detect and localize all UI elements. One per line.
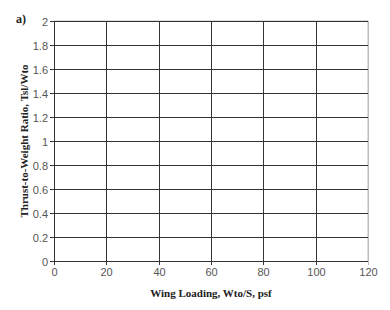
x-tick-label: 20: [100, 266, 112, 278]
y-tick-label: 0.2: [33, 232, 48, 244]
y-tick-label: 0: [42, 256, 48, 268]
x-tick-label: 80: [257, 266, 269, 278]
x-tick-label: 120: [359, 266, 377, 278]
x-tick-label: 0: [51, 266, 57, 278]
x-axis-label: Wing Loading, Wto/S, psf: [150, 287, 272, 299]
x-tick-label: 60: [205, 266, 217, 278]
y-tick-label: 0.6: [33, 184, 48, 196]
y-tick-label: 1.4: [33, 88, 48, 100]
y-tick-label: 2: [42, 16, 48, 28]
y-axis-label: Thrust-to-Weight Ratio, Tsl/Wto: [18, 64, 30, 217]
y-tick-label: 1.2: [33, 112, 48, 124]
x-tick-label: 100: [307, 266, 325, 278]
grid-lines: [50, 21, 369, 265]
y-tick-label: 1: [42, 136, 48, 148]
y-tick-label: 0.8: [33, 160, 48, 172]
panel-label: a): [16, 12, 26, 27]
y-tick-label: 1.8: [33, 40, 48, 52]
chart-plot-area: [0, 0, 390, 310]
x-tick-label: 40: [153, 266, 165, 278]
y-tick-label: 1.6: [33, 64, 48, 76]
y-tick-label: 0.4: [33, 208, 48, 220]
